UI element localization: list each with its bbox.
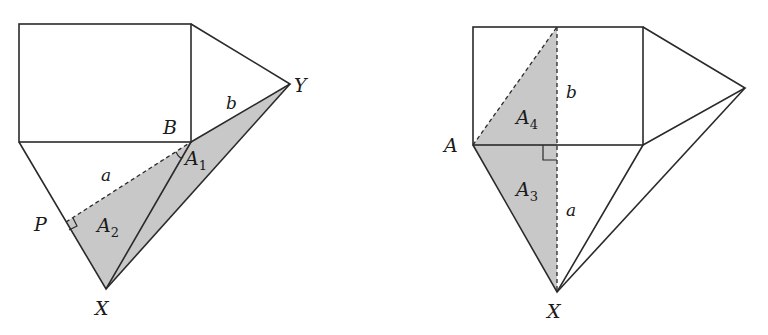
segment-X-apex — [557, 88, 745, 292]
label-B: B — [162, 116, 177, 138]
label-a: a — [101, 165, 111, 185]
label-X: X — [545, 300, 562, 322]
diagram-canvas: B Y X P a b A1 A2 A X b a — [0, 0, 768, 335]
label-Y: Y — [294, 74, 309, 96]
left-figure: B Y X P a b A1 A2 — [19, 24, 309, 319]
label-A: A — [442, 134, 458, 156]
upper-triangle — [643, 27, 745, 145]
label-a: a — [566, 200, 576, 220]
label-b: b — [566, 82, 577, 102]
label-P: P — [33, 213, 48, 235]
right-figure: A X b a A4 A3 — [442, 27, 745, 322]
label-b: b — [226, 93, 237, 113]
label-X: X — [93, 297, 110, 319]
